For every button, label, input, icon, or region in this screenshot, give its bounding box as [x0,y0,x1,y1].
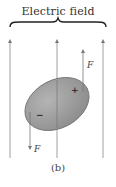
figure-caption: (b) [0,162,116,173]
force-label-top: F [86,60,94,70]
force-label-bottom: F [33,144,41,154]
minus-charge: − [36,110,44,120]
dipole-in-field-diagram: F F + − [0,0,116,187]
field-brace [10,18,106,27]
plus-charge: + [71,85,79,95]
